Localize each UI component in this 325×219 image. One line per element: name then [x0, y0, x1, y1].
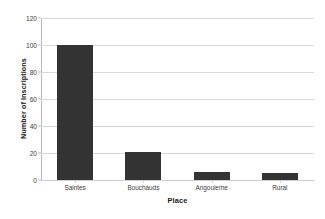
bar-chart: Number of Inscriptions 020406080100120 S…	[0, 0, 325, 219]
x-tick-mark	[143, 180, 144, 183]
y-axis-tick-label: 40	[30, 123, 37, 130]
y-axis-tick-label: 120	[26, 15, 37, 22]
y-axis-tick-label: 20	[30, 150, 37, 157]
bar-series: SaintesBouchaudsAngoulemeRural	[41, 18, 314, 180]
bar	[194, 172, 230, 180]
x-tick-mark	[75, 180, 76, 183]
bar-group: Rural	[246, 18, 314, 180]
x-axis-tick-label: Bouchauds	[127, 184, 159, 191]
bar-group: Angouleme	[178, 18, 246, 180]
x-axis-tick-label: Saintes	[64, 184, 85, 191]
bar-group: Saintes	[41, 18, 109, 180]
y-axis-tick-label: 80	[30, 69, 37, 76]
bar-group: Bouchauds	[109, 18, 177, 180]
x-axis-title: Place	[41, 196, 314, 205]
x-axis-tick-label: Rural	[272, 184, 287, 191]
y-axis-title: Number of Inscriptions	[19, 29, 28, 169]
x-tick-mark	[280, 180, 281, 183]
bar	[57, 45, 93, 180]
axis-baseline	[41, 180, 314, 181]
y-axis-tick-label: 60	[30, 96, 37, 103]
bar	[125, 152, 161, 180]
x-tick-mark	[212, 180, 213, 183]
bar	[262, 173, 298, 180]
y-axis-tick-label: 100	[26, 42, 37, 49]
y-axis-tick-label: 0	[33, 177, 37, 184]
plot-area: 020406080100120 SaintesBouchaudsAngoulem…	[41, 18, 314, 180]
x-axis-tick-label: Angouleme	[195, 184, 227, 191]
